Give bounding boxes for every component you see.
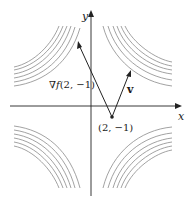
level-curve-diagram: x y (2, −1) ∇f(2, −1) v xyxy=(0,0,196,203)
axes xyxy=(10,15,177,196)
point-marker xyxy=(110,115,114,119)
point-label: (2, −1) xyxy=(98,122,133,133)
v-label: v xyxy=(126,83,134,96)
v-arrowhead-icon xyxy=(126,70,131,77)
gradient-arrowhead-icon xyxy=(77,41,82,49)
nabla-symbol: ∇ xyxy=(49,79,56,90)
x-axis-arrowhead-icon xyxy=(175,103,182,109)
y-axis-arrowhead-icon xyxy=(88,10,94,17)
gradient-args: (2, −1) xyxy=(60,79,95,90)
y-axis-label: y xyxy=(81,10,89,23)
gradient-label: ∇f(2, −1) xyxy=(49,79,95,90)
x-axis-label: x xyxy=(178,110,185,123)
level-curves xyxy=(14,26,172,188)
